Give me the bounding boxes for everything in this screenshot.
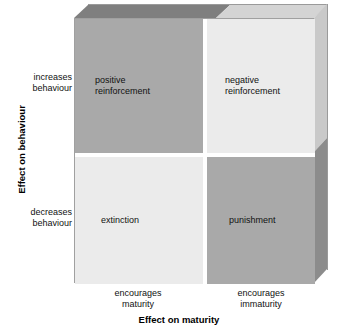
box-top-bevel-right	[216, 5, 328, 18]
x-axis-tick-encourages-immaturity: encourages immaturity	[218, 288, 304, 310]
quadrant-label-positive-reinforcement: positive reinforcement	[75, 75, 150, 97]
quadrant-extinction: extinction	[75, 157, 203, 284]
quadrant-punishment: punishment	[207, 157, 315, 284]
quadrant-positive-reinforcement: positive reinforcement	[75, 19, 203, 153]
x-axis-tick-encourages-maturity: encourages maturity	[100, 288, 176, 310]
y-axis-title: Effect on behaviour	[16, 85, 27, 215]
quadrant-negative-reinforcement: negative reinforcement	[207, 19, 315, 153]
box-right-outline	[327, 4, 328, 270]
quadrant-label-punishment: punishment	[207, 215, 276, 226]
x-axis-title: Effect on maturity	[114, 314, 244, 325]
quadrant-label-negative-reinforcement: negative reinforcement	[207, 75, 280, 97]
box-right-bevel-lower	[314, 138, 327, 283]
quadrant-label-extinction: extinction	[75, 215, 139, 226]
box-right-bevel-upper	[314, 4, 327, 152]
reinforcement-matrix-diagram: positive reinforcement negative reinforc…	[0, 0, 354, 326]
box-top-bevel-left	[74, 5, 230, 18]
matrix-front-face: positive reinforcement negative reinforc…	[74, 18, 314, 283]
matrix-3d-box: positive reinforcement negative reinforc…	[0, 0, 354, 326]
